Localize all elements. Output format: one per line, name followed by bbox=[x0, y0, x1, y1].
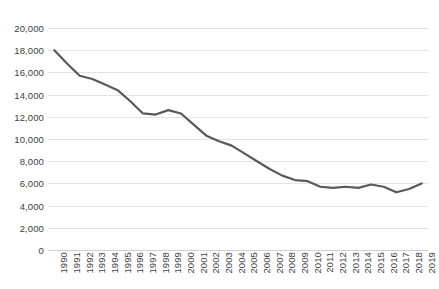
x-tick-label: 1997 bbox=[147, 252, 158, 274]
x-tick-label: 2011 bbox=[324, 252, 335, 273]
x-tick-label: 2008 bbox=[286, 252, 297, 274]
x-tick-label: 2019 bbox=[426, 252, 437, 274]
x-tick-label: 2016 bbox=[388, 252, 399, 274]
x-tick-label: 2015 bbox=[375, 252, 386, 274]
x-tick-label: 2002 bbox=[210, 252, 221, 274]
x-tick-label: 1998 bbox=[160, 252, 171, 274]
x-tick-label: 2013 bbox=[350, 252, 361, 274]
line-chart: 02,0004,0006,0008,00010,00012,00014,0001… bbox=[0, 0, 439, 289]
x-tick-label: 2006 bbox=[261, 252, 272, 274]
x-tick-label: 2000 bbox=[185, 252, 196, 274]
series-line bbox=[54, 50, 421, 192]
y-tick-label: 6,000 bbox=[0, 178, 44, 189]
x-tick-label: 1995 bbox=[122, 252, 133, 274]
x-tick-label: 1999 bbox=[172, 252, 183, 274]
x-tick-label: 2018 bbox=[413, 252, 424, 274]
x-axis: 1990199119921993199419951996199719981999… bbox=[48, 252, 428, 289]
y-tick-label: 10,000 bbox=[0, 134, 44, 145]
x-tick-label: 2017 bbox=[400, 252, 411, 274]
x-tick-label: 1992 bbox=[84, 252, 95, 274]
gridline bbox=[48, 250, 428, 251]
y-axis: 02,0004,0006,0008,00010,00012,00014,0001… bbox=[0, 28, 44, 250]
x-tick-label: 2007 bbox=[274, 252, 285, 274]
x-tick-label: 2012 bbox=[337, 252, 348, 274]
x-tick-label: 1994 bbox=[109, 252, 120, 274]
plot-area bbox=[48, 28, 428, 250]
y-tick-label: 20,000 bbox=[0, 23, 44, 34]
x-tick-label: 2010 bbox=[312, 252, 323, 274]
x-tick-label: 2014 bbox=[362, 252, 373, 274]
series-line-svg bbox=[48, 28, 428, 250]
x-tick-label: 2009 bbox=[299, 252, 310, 274]
x-tick-label: 2005 bbox=[248, 252, 259, 274]
x-tick-label: 1996 bbox=[134, 252, 145, 274]
y-tick-label: 4,000 bbox=[0, 200, 44, 211]
x-tick-label: 2003 bbox=[223, 252, 234, 274]
y-tick-label: 16,000 bbox=[0, 67, 44, 78]
x-tick-label: 2004 bbox=[236, 252, 247, 274]
y-tick-label: 0 bbox=[0, 245, 44, 256]
x-tick-label: 1993 bbox=[96, 252, 107, 274]
y-tick-label: 8,000 bbox=[0, 156, 44, 167]
y-tick-label: 18,000 bbox=[0, 45, 44, 56]
y-tick-label: 2,000 bbox=[0, 222, 44, 233]
x-tick-label: 1991 bbox=[71, 252, 82, 274]
y-tick-label: 14,000 bbox=[0, 89, 44, 100]
y-tick-label: 12,000 bbox=[0, 111, 44, 122]
x-tick-label: 1990 bbox=[58, 252, 69, 274]
x-tick-label: 2001 bbox=[198, 252, 209, 274]
